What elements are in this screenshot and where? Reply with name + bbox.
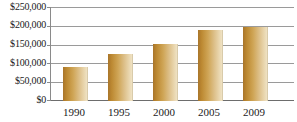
y-axis-tick-label: $50,000 (0, 76, 46, 86)
gridline-250000 (51, 7, 294, 8)
x-axis: 1990 1995 2000 2005 2009 (50, 104, 297, 122)
bar-2009 (243, 27, 268, 101)
x-axis-tick-label: 2005 (189, 106, 229, 118)
y-axis-tick-label: $100,000 (0, 58, 46, 68)
y-axis-tick-label: $150,000 (0, 39, 46, 49)
y-axis-tick-label: $0 (0, 95, 46, 105)
bar-2005 (198, 30, 223, 101)
y-tick-mark (47, 82, 51, 83)
y-tick-mark (47, 7, 51, 8)
y-axis-tick-label: $200,000 (0, 20, 46, 30)
y-tick-mark (47, 26, 51, 27)
bar-1995 (108, 54, 133, 101)
y-axis-tick-label: $250,000 (0, 2, 46, 12)
plot-area (50, 7, 293, 101)
x-axis-tick-label: 2000 (144, 106, 184, 118)
x-axis-tick-label: 1995 (99, 106, 139, 118)
y-tick-mark (47, 100, 51, 101)
y-axis: $250,000 $200,000 $150,000 $100,000 $50,… (0, 0, 48, 104)
bar-2000 (153, 44, 178, 101)
x-axis-tick-label: 2009 (234, 106, 274, 118)
bar-chart: $250,000 $200,000 $150,000 $100,000 $50,… (0, 0, 297, 122)
y-tick-mark (47, 63, 51, 64)
bar-1990 (63, 67, 88, 101)
x-axis-tick-label: 1990 (54, 106, 94, 118)
y-tick-mark (47, 45, 51, 46)
